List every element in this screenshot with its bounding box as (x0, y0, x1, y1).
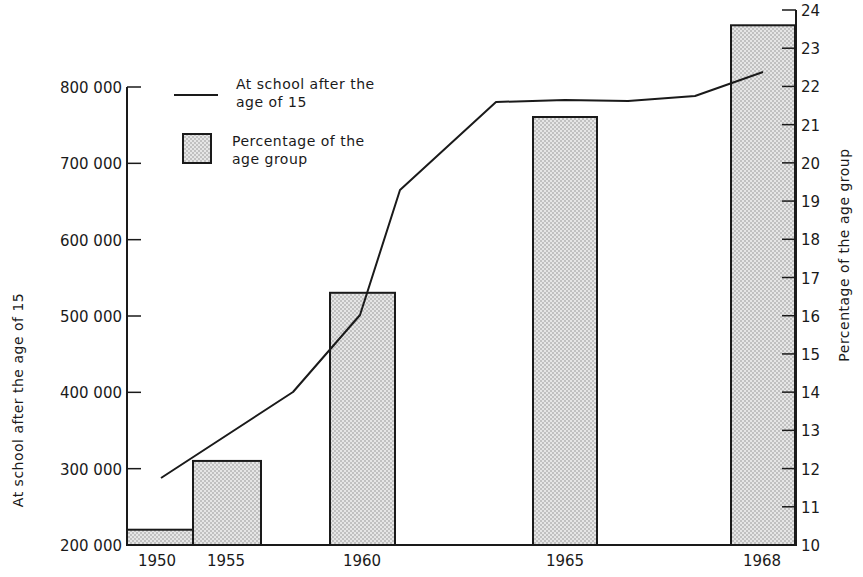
legend-bar-label-2: age group (232, 151, 308, 167)
left-tick-label: 800 000 (60, 79, 122, 97)
bar-series-percentage (127, 25, 795, 545)
right-tick-label: 11 (801, 499, 820, 517)
legend-bar-label-1: Percentage of the (232, 133, 365, 149)
x-tick-label-1950: 1950 (138, 552, 176, 570)
x-tick-label-1955: 1955 (207, 552, 245, 570)
right-tick-label: 23 (801, 40, 820, 58)
legend-bar-swatch (183, 134, 211, 163)
bar-1965 (533, 117, 597, 545)
right-tick-label: 19 (801, 193, 820, 211)
bar-1960 (330, 293, 395, 545)
left-tick-label: 500 000 (60, 308, 122, 326)
bar-1950 (127, 530, 193, 545)
right-tick-label: 13 (801, 422, 820, 440)
right-tick-label: 17 (801, 270, 820, 288)
legend: At school after the age of 15 Percentage… (174, 76, 375, 167)
legend-line-label-2: age of 15 (236, 94, 307, 110)
right-tick-label: 21 (801, 117, 820, 135)
x-tick-label-1960: 1960 (343, 552, 381, 570)
legend-line-label-1: At school after the (236, 76, 375, 92)
left-tick-label: 700 000 (60, 155, 122, 173)
right-tick-label: 22 (801, 78, 820, 96)
right-tick-label: 16 (801, 308, 820, 326)
bar-1968 (731, 25, 795, 545)
left-tick-label: 400 000 (60, 384, 122, 402)
left-axis-title: At school after the age of 15 (10, 293, 26, 507)
right-tick-label: 10 (801, 537, 820, 555)
right-tick-label: 18 (801, 231, 820, 249)
left-tick-label: 200 000 (60, 537, 122, 555)
x-axis-tick-labels: 19501955196019651968 (138, 552, 781, 570)
bar-1955 (193, 461, 261, 545)
x-tick-label-1968: 1968 (743, 552, 781, 570)
right-tick-label: 24 (801, 2, 820, 20)
combo-chart: 200 000300 000400 000500 000600 000700 0… (0, 0, 863, 577)
right-axis-title: Percentage of the age group (836, 148, 852, 361)
right-tick-label: 15 (801, 346, 820, 364)
left-tick-label: 300 000 (60, 461, 122, 479)
right-tick-label: 20 (801, 155, 820, 173)
right-tick-label: 14 (801, 384, 820, 402)
x-tick-label-1965: 1965 (546, 552, 584, 570)
left-tick-label: 600 000 (60, 232, 122, 250)
left-axis-ticks: 200 000300 000400 000500 000600 000700 0… (60, 79, 141, 555)
right-tick-label: 12 (801, 461, 820, 479)
